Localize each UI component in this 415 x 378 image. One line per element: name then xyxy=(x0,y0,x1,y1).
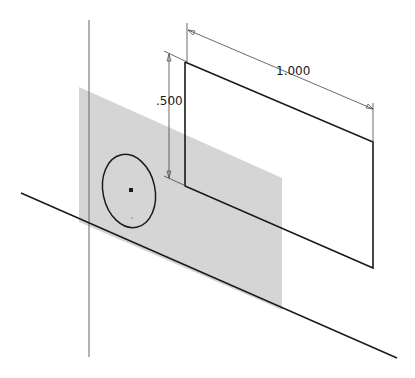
work-plane[interactable] xyxy=(79,87,282,310)
arrowhead-right-icon xyxy=(366,104,373,109)
width-dimension[interactable] xyxy=(187,23,373,142)
arrowhead-left-icon xyxy=(188,30,195,35)
sketch-mark xyxy=(131,217,133,219)
circle-center-point[interactable] xyxy=(129,188,133,192)
cad-sketch-canvas[interactable] xyxy=(0,0,415,378)
width-dimension-label[interactable]: 1.000 xyxy=(276,65,310,77)
height-dimension-label[interactable]: .500 xyxy=(156,95,183,107)
